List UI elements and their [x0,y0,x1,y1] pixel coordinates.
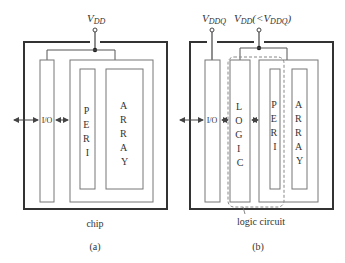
diagram-canvas: VDD I/O P E R I A R R A Y chip (a) VDDQ … [0,0,345,263]
logic-circuit-label: logic circuit [237,216,285,227]
supply-bus [240,48,287,60]
vdd-terminal-icon [93,28,97,32]
core-block [70,60,153,202]
peri-label: P E R I [83,105,92,158]
array-label: A R R A Y [295,99,304,166]
vdd-label: VDD [87,12,106,26]
io-block [40,60,54,202]
peri-label: P E R I [270,99,279,152]
core-block [259,60,318,202]
vdd-terminal-icon [257,28,261,32]
io-label: I/O [42,116,53,125]
chip-label: chip [86,218,103,229]
panel-b [180,28,333,214]
caption-b: (b) [252,241,264,253]
vddq-terminal-icon [210,28,214,32]
logic-label: L O G I C [235,101,245,168]
chip-outline [190,42,333,209]
supply-bus [47,50,115,60]
io-block [205,60,220,202]
vdd-label: VDD(<VDDQ) [234,12,291,26]
vddq-label: VDDQ [202,12,226,26]
io-label: I/O [207,116,218,125]
array-label: A R R A Y [120,100,129,167]
caption-a: (a) [89,241,100,253]
